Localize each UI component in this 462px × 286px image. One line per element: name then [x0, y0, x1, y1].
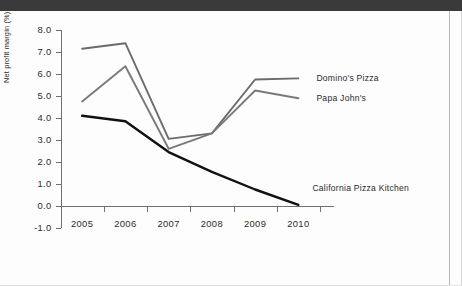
chart-lines — [0, 11, 462, 286]
series-label-california-pizza-kitchen: California Pizza Kitchen — [312, 183, 409, 193]
series-label-papa-johns: Papa John's — [316, 93, 366, 103]
chart-page: Net profit margin (%) 8.07.06.05.04.03.0… — [0, 0, 462, 286]
plot-area: Net profit margin (%) 8.07.06.05.04.03.0… — [0, 11, 462, 286]
series-line — [82, 116, 298, 205]
scan-top-band — [0, 0, 462, 11]
series-label-dominos: Domino's Pizza — [316, 73, 378, 83]
series-line — [82, 43, 298, 139]
